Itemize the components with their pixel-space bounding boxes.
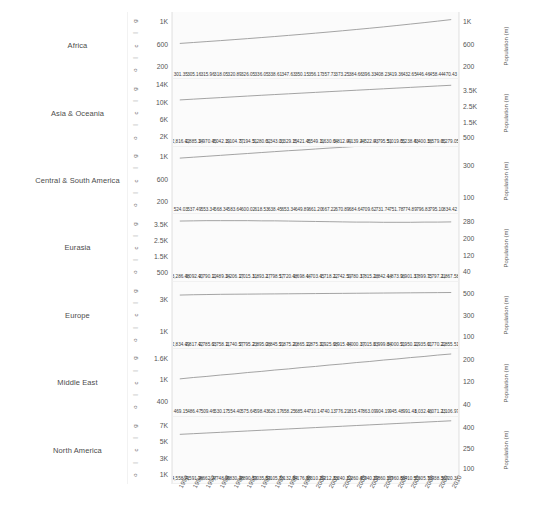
bar-value-label: 2,885.34 xyxy=(185,140,203,145)
bar-value-label: 373.25 xyxy=(335,73,349,78)
region-label: Eurasia xyxy=(28,214,128,281)
fuel-axis-separator: | xyxy=(132,100,138,102)
fuel-axis-separator: | xyxy=(132,394,138,396)
bar-value-label: 3,286.48 xyxy=(172,275,190,280)
left-axis-tick: 2.5K xyxy=(154,238,168,245)
bar-group: 2,816.422,885.342,970.453,042.193,104.77… xyxy=(173,79,458,145)
left-axis-tick: 5K xyxy=(160,439,168,446)
left-axis-tick: 200 xyxy=(157,199,168,206)
region-label: Asia & Oceania xyxy=(28,79,128,146)
fuel-axis-separator: | xyxy=(132,259,138,261)
bar-value-label: 2,795.23 xyxy=(239,343,257,348)
bar-value-label: 1,106.97 xyxy=(441,410,459,415)
bar-value-label: 5,238.43 xyxy=(401,140,419,145)
fuel-axis-separator: | xyxy=(132,125,138,127)
bar-value-label: 670.89 xyxy=(335,208,349,213)
fuel-axis-tick: o xyxy=(132,69,138,72)
fuel-axis: g|c|o xyxy=(128,147,142,214)
fuel-axis-tick: c xyxy=(132,314,138,317)
right-axis-tick: 500 xyxy=(463,291,474,298)
right-axis-tick: 1.5K xyxy=(463,120,477,127)
bar-value-label: 336.05 xyxy=(255,73,269,78)
fuel-axis: g|c|o xyxy=(128,417,142,484)
bar-value-label: 834.42 xyxy=(443,208,457,213)
right-axis-tick: 100 xyxy=(463,466,474,473)
right-axis-tick: 100 xyxy=(463,195,474,202)
bar-group: 524.03537.49553.34568.34583.64600.02618.… xyxy=(173,147,458,213)
bar-value-label: 661.20 xyxy=(308,208,322,213)
bar-value-label: 1,698.44 xyxy=(293,275,311,280)
fuel-axis: g|c|o xyxy=(128,282,142,349)
bar-value-label: 1,873.96 xyxy=(387,275,405,280)
bar-value-label: 575.64 xyxy=(241,410,255,415)
bar-value-label: 2,950.12 xyxy=(401,343,419,348)
right-axis-tick: 2.5K xyxy=(463,104,477,111)
right-population-axis: 500300100 xyxy=(459,282,489,349)
left-axis-tick: 10K xyxy=(156,100,168,107)
left-axis-tick: 500 xyxy=(157,270,168,277)
fuel-axis-tick: o xyxy=(132,473,138,476)
bar-value-label: 554.40 xyxy=(228,410,242,415)
bar-value-label: 904.19 xyxy=(376,410,390,415)
left-value-axis: 1K600200 xyxy=(142,12,172,79)
fuel-axis-tick: g xyxy=(132,87,138,90)
bar-value-label: 598.43 xyxy=(255,410,269,415)
bar-value-label: 945.48 xyxy=(389,410,403,415)
bar-value-label: 2,935.61 xyxy=(414,343,432,348)
right-axis-title-cell: Population (m) xyxy=(489,282,523,349)
bar-value-label: 6,279.05 xyxy=(441,140,459,145)
right-axis-tick: 280 xyxy=(463,219,474,226)
fuel-axis-tick: c xyxy=(132,381,138,384)
bar-value-label: 469.15 xyxy=(174,410,188,415)
right-axis-title: Population (m) xyxy=(503,295,509,335)
bar-value-label: 509.46 xyxy=(201,410,215,415)
fuel-axis-tick: g xyxy=(132,357,138,360)
left-axis-tick: 400 xyxy=(157,399,168,406)
bar-value-label: 357.73 xyxy=(322,73,336,78)
bar-value-label: 583.64 xyxy=(228,208,242,213)
fuel-axis-tick: c xyxy=(132,179,138,182)
fuel-axis-tick: g xyxy=(132,20,138,23)
left-axis-tick: 600 xyxy=(157,42,168,49)
bar-value-label: 658.25 xyxy=(281,410,295,415)
right-axis-tick: 300 xyxy=(463,163,474,170)
bar-value-label: 338.61 xyxy=(268,73,282,78)
fuel-axis-separator: | xyxy=(132,437,138,439)
chart-page: Africag|c|o1K600200301.35305.16315.96318… xyxy=(0,0,551,529)
bar-value-label: 991.48 xyxy=(403,410,417,415)
right-axis-tick: 40 xyxy=(463,402,471,409)
left-axis-tick: 1K xyxy=(160,154,168,161)
fuel-axis-tick: c xyxy=(132,112,138,115)
bar-value-label: 350.15 xyxy=(295,73,309,78)
bar-value-label: 524.03 xyxy=(174,208,188,213)
bar-value-label: 2,915.44 xyxy=(333,343,351,348)
right-axis-tick: 120 xyxy=(463,253,474,260)
region-label: Middle East xyxy=(28,349,128,416)
fuel-axis-separator: | xyxy=(132,235,138,237)
right-axis-title: Population (m) xyxy=(503,430,509,470)
right-population-axis: 3.5K2.5K1.5K500 xyxy=(459,79,489,146)
bar-value-label: 1,797.21 xyxy=(428,275,446,280)
left-value-axis: 7K5K3K1K xyxy=(142,417,172,484)
left-value-axis: 1.6K1K400 xyxy=(142,349,172,416)
bar-value-label: 3,630.64 xyxy=(320,140,338,145)
right-axis-tick: 500 xyxy=(463,135,474,142)
bar-value-label: 2,875.32 xyxy=(306,343,324,348)
fuel-axis-separator: | xyxy=(132,192,138,194)
fuel-axis-separator: | xyxy=(132,370,138,372)
left-axis-tick: 600 xyxy=(157,177,168,184)
bar-value-label: 796.83 xyxy=(416,208,430,213)
bar-value-label: 2,790.12 xyxy=(199,275,217,280)
fuel-axis-tick: g xyxy=(132,222,138,225)
fuel-axis: g|c|o xyxy=(128,214,142,281)
bar-value-label: 3,280.62 xyxy=(253,140,271,145)
bar-value-label: 2,855.51 xyxy=(441,343,459,348)
right-axis-title-cell: Population (m) xyxy=(489,79,523,146)
bar-value-label: 2,875.20 xyxy=(280,343,298,348)
fuel-axis: g|c|o xyxy=(128,349,142,416)
bar-value-label: 751.78 xyxy=(389,208,403,213)
bar-value-label: 2,785.63 xyxy=(199,343,217,348)
region-label: North America xyxy=(28,417,128,484)
right-axis-tick: 1K xyxy=(463,19,471,26)
bar-value-label: 4,795.51 xyxy=(374,140,392,145)
